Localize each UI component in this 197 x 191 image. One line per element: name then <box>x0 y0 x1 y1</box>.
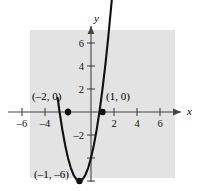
y-tick-label: 2 <box>79 84 84 95</box>
x-tick-label: 4 <box>134 118 140 129</box>
right-root-label: (1, 0) <box>106 90 130 103</box>
x-tick-label: 6 <box>157 118 162 129</box>
x-axis-arrow <box>173 109 181 116</box>
x-tick-label: –4 <box>39 118 51 129</box>
x-axis-label: x <box>186 105 192 117</box>
x-tick-label: –6 <box>16 118 28 129</box>
left-root-label: (–2, 0) <box>32 90 62 103</box>
y-axis-label: y <box>93 12 99 24</box>
plot-point-1 <box>99 109 105 115</box>
x-tick-label: 2 <box>111 118 116 129</box>
plot-point-2 <box>76 178 82 184</box>
parabola-figure: –6–4246642–2 x y (–2, 0) (1, 0) (–1, –6) <box>0 0 197 191</box>
y-tick-label: 6 <box>79 38 84 49</box>
y-tick-label: 4 <box>79 61 85 72</box>
plot-panel <box>30 30 175 178</box>
plot-point-0 <box>65 109 71 115</box>
y-tick-label: –2 <box>73 130 85 141</box>
graph-canvas: –6–4246642–2 x y (–2, 0) (1, 0) (–1, –6) <box>0 0 197 191</box>
vertex-label: (–1, –6) <box>34 168 69 181</box>
